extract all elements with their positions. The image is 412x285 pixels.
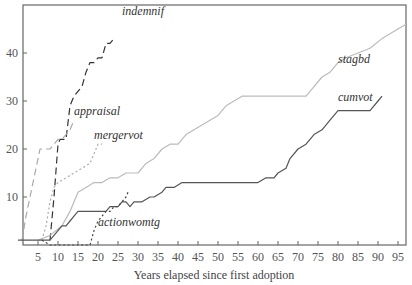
series-label-mergervot: mergervot (94, 128, 144, 142)
x-tick-label: 90 (372, 250, 384, 264)
x-tick-label: 15 (72, 250, 84, 264)
y-tick-label: 30 (6, 94, 18, 108)
y-tick-label: 40 (6, 46, 18, 60)
x-tick-label: 10 (52, 250, 64, 264)
x-tick-label: 20 (92, 250, 104, 264)
x-tick-label: 35 (152, 250, 164, 264)
x-tick-label: 80 (332, 250, 344, 264)
series-label-actionwomtg: actionwomtg (98, 215, 160, 229)
x-tick-label: 95 (392, 250, 404, 264)
y-tick-label: 20 (6, 142, 18, 156)
series-label-stagbd: stagbd (338, 52, 371, 66)
series-label-appraisal: appraisal (74, 104, 121, 118)
x-tick-label: 60 (252, 250, 264, 264)
x-axis-title: Years elapsed since first adoption (134, 268, 295, 282)
x-tick-label: 45 (192, 250, 204, 264)
x-tick-label: 30 (132, 250, 144, 264)
x-tick-label: 50 (212, 250, 224, 264)
plot-frame (23, 5, 406, 245)
y-axis: 10203040 (6, 46, 27, 204)
x-tick-label: 5 (35, 250, 41, 264)
x-tick-label: 55 (232, 250, 244, 264)
series-labels: indemnifappraisalmergervotstagbdcumvotac… (74, 4, 373, 229)
series-label-indemnif: indemnif (122, 4, 166, 18)
series-line-appraisal (22, 120, 74, 240)
line-chart: indemnifappraisalmergervotstagbdcumvotac… (0, 0, 412, 285)
x-tick-label: 25 (112, 250, 124, 264)
x-tick-label: 65 (272, 250, 284, 264)
series-line-cumvot (18, 96, 382, 240)
plot-border (23, 5, 406, 245)
y-tick-label: 10 (6, 190, 18, 204)
x-tick-label: 70 (292, 250, 304, 264)
series-label-cumvot: cumvot (338, 90, 373, 104)
x-tick-label: 40 (172, 250, 184, 264)
x-tick-label: 75 (312, 250, 324, 264)
x-tick-label: 85 (352, 250, 364, 264)
